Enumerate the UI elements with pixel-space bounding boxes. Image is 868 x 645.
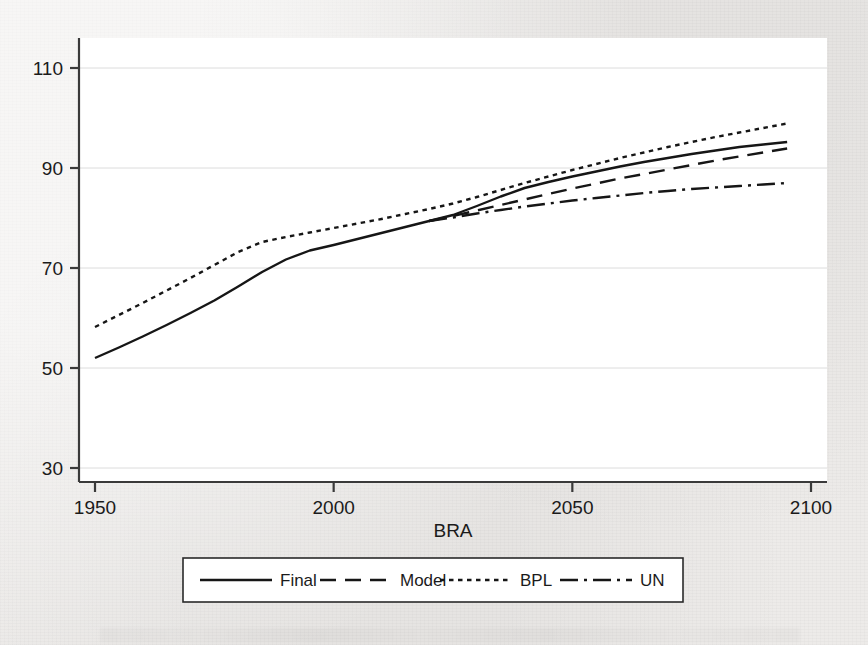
plot-area-background <box>79 38 827 482</box>
y-axis-ticks <box>70 68 79 468</box>
y-tick-label: 50 <box>42 358 63 379</box>
x-tick-label: 1950 <box>74 497 116 518</box>
y-tick-label: 70 <box>42 258 63 279</box>
legend-label-bpl: BPL <box>520 571 552 590</box>
x-axis-ticks <box>95 482 811 492</box>
legend-label-model: Model <box>400 571 446 590</box>
x-tick-label: 2100 <box>790 497 832 518</box>
x-axis-title: BRA <box>433 520 472 541</box>
line-chart-figure: 30507090110 1950200020502100 BRA FinalMo… <box>0 0 868 645</box>
chart-legend: FinalModelBPLUN <box>183 558 683 602</box>
x-tick-label: 2000 <box>313 497 355 518</box>
y-axis-tick-labels: 30507090110 <box>33 58 63 479</box>
legend-label-un: UN <box>640 571 665 590</box>
x-axis-tick-labels: 1950200020502100 <box>74 497 832 518</box>
x-tick-label: 2050 <box>551 497 593 518</box>
y-tick-label: 110 <box>33 58 63 79</box>
y-tick-label: 30 <box>42 458 63 479</box>
legend-label-final: Final <box>280 571 317 590</box>
y-tick-label: 90 <box>42 158 63 179</box>
